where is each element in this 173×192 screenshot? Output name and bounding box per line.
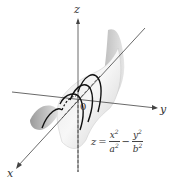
surface-front-wing <box>30 106 58 130</box>
z-axis-label: z <box>74 4 80 15</box>
fraction-y-over-b: y2 b2 <box>132 129 143 154</box>
origin-label: 0 <box>80 102 86 112</box>
x-axis-label: x <box>7 168 13 179</box>
equation-lhs: z <box>91 136 96 147</box>
equation: z = x2 a2 − y2 b2 <box>91 129 143 154</box>
y-axis-label: y <box>160 104 166 115</box>
equation-equals: = <box>98 136 106 147</box>
fraction-x-over-a: x2 a2 <box>109 129 120 154</box>
diagram-canvas <box>0 0 173 192</box>
equation-minus: − <box>122 136 130 147</box>
